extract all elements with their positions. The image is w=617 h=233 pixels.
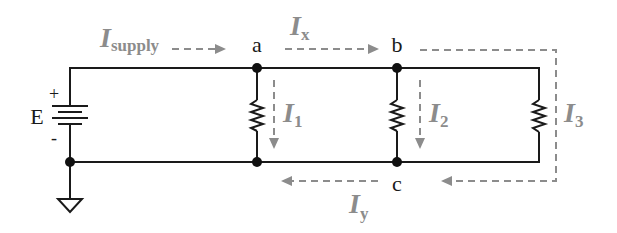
battery-plus-label: + [49, 84, 59, 104]
current-label-i2: I2 [428, 97, 448, 131]
current-label-i1: I1 [282, 97, 302, 131]
resistor-r2-icon [391, 100, 403, 131]
battery-icon [52, 106, 88, 130]
node-a-bottom-dot [252, 157, 262, 167]
top-wire [70, 68, 539, 106]
source-label: E [30, 104, 43, 129]
node-a-dot [252, 63, 262, 73]
node-b-dot [392, 63, 402, 73]
circuit-diagram: + - E a b c Isupply Ix [0, 0, 617, 233]
current-arrow-ix [285, 44, 379, 54]
resistor-r3-icon [533, 100, 545, 132]
circuit-wires [70, 68, 539, 199]
ground-node-dot [65, 157, 75, 167]
bottom-wire [70, 126, 539, 162]
current-label-ix: Ix [289, 10, 310, 44]
current-arrow-i1 [269, 80, 279, 149]
current-arrow-iy [281, 176, 378, 186]
resistor-r1-icon [251, 100, 263, 131]
battery-minus-label: - [51, 128, 57, 148]
node-b-label: b [392, 32, 403, 57]
node-c-label: c [392, 171, 402, 196]
ground-icon [58, 199, 82, 212]
current-label-i3: I3 [563, 97, 583, 131]
current-arrow-supply [172, 44, 226, 54]
current-label-iy: Iy [348, 188, 369, 223]
node-a-label: a [252, 32, 262, 57]
current-label-supply: Isupply [99, 22, 160, 55]
current-arrow-i2 [415, 80, 425, 149]
node-c-dot [392, 157, 402, 167]
